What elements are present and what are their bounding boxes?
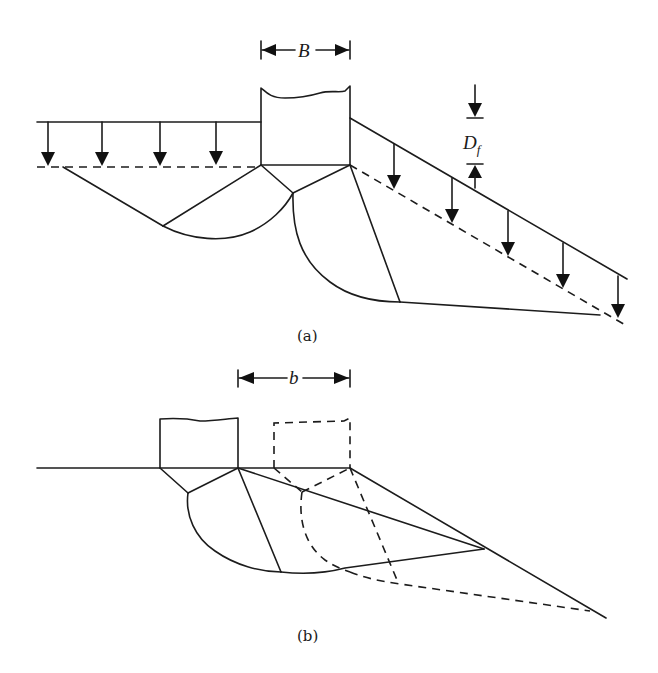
surcharge-arrows-slope [387,144,625,318]
arrow-right-icon [334,372,349,384]
dimension-label-b: b [289,367,299,388]
dimension-label-Df: Df [462,132,483,157]
panel-b: b (b) [37,367,606,645]
arrow-down-icon [611,304,625,318]
arrow-left-icon [239,372,254,384]
caption-a: (a) [297,327,318,345]
failure-mechanism-b-dashed [274,468,590,611]
arrow-down-icon [41,152,55,166]
dimension-Df: Df [462,85,483,188]
arrow-down-icon [153,152,167,166]
footing-b-actual [160,418,238,468]
dimension-b: b [238,367,350,388]
failure-mechanism-a [63,165,600,315]
surcharge-arrows-left [41,122,223,166]
arrow-down-icon [501,242,515,256]
bearing-capacity-slope-figure: B [0,0,658,673]
arrow-left-icon [262,44,276,56]
panel-a: B [37,40,627,345]
arrow-down-icon [209,151,223,165]
footing-b-at-crest [274,418,350,468]
footing-a [261,86,350,165]
caption-b: (b) [297,627,318,645]
arrow-down-icon [468,103,482,117]
arrow-down-icon [95,152,109,166]
arrow-right-icon [335,44,349,56]
dimension-label-B: B [298,40,310,61]
dimension-B: B [261,40,350,61]
slope-surface [350,118,627,279]
